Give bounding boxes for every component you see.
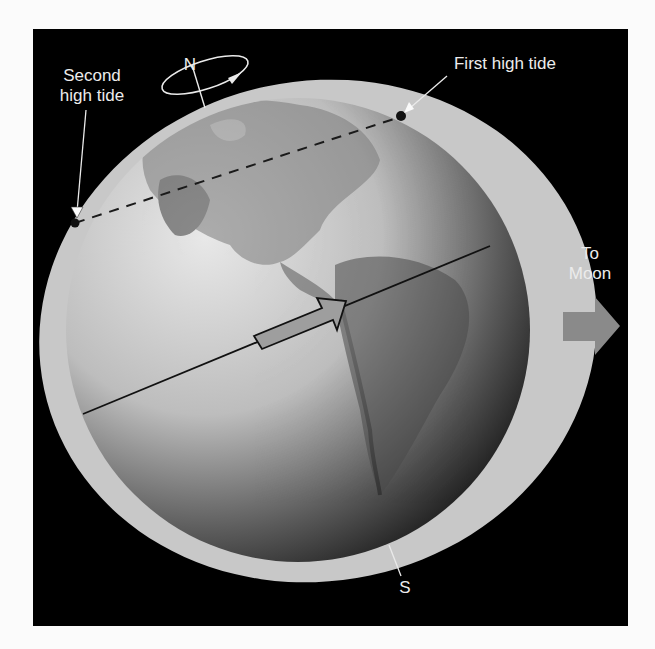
to-moon-label-line1: To bbox=[560, 244, 620, 264]
south-label: S bbox=[393, 578, 417, 598]
rotation-arrowhead-icon bbox=[228, 72, 242, 84]
to-moon-label: To Moon bbox=[560, 244, 620, 284]
second-high-tide-label-line2: high tide bbox=[42, 86, 142, 106]
north-label: N bbox=[178, 55, 202, 75]
to-moon-label-line2: Moon bbox=[560, 264, 620, 284]
second-high-tide-label: Second high tide bbox=[42, 66, 142, 106]
second-high-tide-dot bbox=[71, 219, 80, 228]
second-high-tide-leader bbox=[77, 110, 86, 212]
first-high-tide-label: First high tide bbox=[435, 54, 575, 74]
second-high-tide-label-line1: Second bbox=[42, 66, 142, 86]
